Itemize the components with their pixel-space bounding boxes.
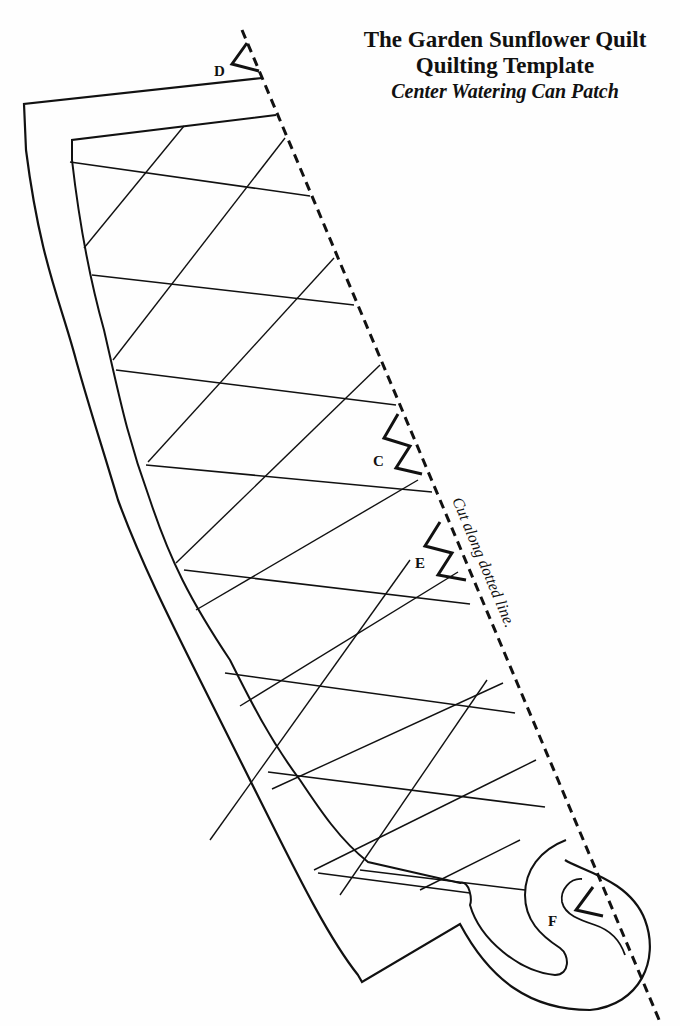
notch-f-label: F [548,913,557,929]
outer-outline [24,78,650,1010]
notch-d-marker [232,43,259,71]
cut-dotted-line [242,30,660,1022]
quilting-template-drawing: D C E F Cut along dotted line. [0,0,680,1026]
notch-e-marker [425,522,466,580]
notch-e-label: E [415,555,425,571]
notch-c-label: C [373,453,384,469]
notch-d-label: D [214,63,225,79]
inner-outline [72,115,567,975]
template-page: The Garden Sunflower Quilt Quilting Temp… [0,0,680,1026]
cut-instruction: Cut along dotted line. [448,495,519,631]
notch-c-marker [384,414,422,474]
notch-f-marker [576,887,603,916]
